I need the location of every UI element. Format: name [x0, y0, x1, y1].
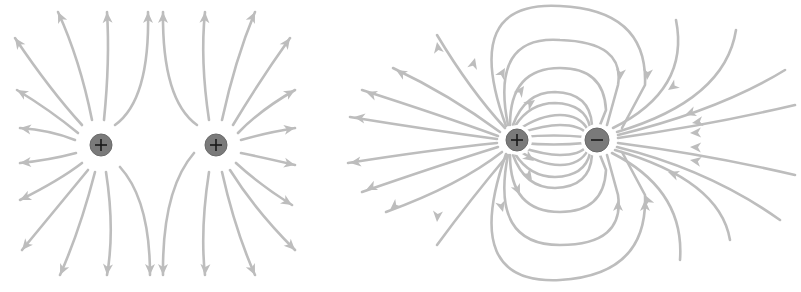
arrowhead-icon: [280, 195, 295, 209]
arrowhead-icon: [690, 128, 701, 138]
field-line: [393, 68, 500, 132]
field-line: [163, 12, 197, 125]
positive-charge: [502, 125, 532, 155]
panel-dipole: [348, 6, 795, 280]
field-line: [236, 163, 292, 205]
field-line: [163, 153, 194, 275]
arrowhead-icon: [246, 10, 260, 24]
negative-charge: [581, 124, 613, 156]
field-line: [241, 128, 295, 140]
arrowhead-icon: [432, 211, 443, 223]
field-line: [106, 172, 111, 275]
field-line: [492, 152, 646, 280]
arrowhead-icon: [690, 142, 701, 152]
charges: [86, 130, 231, 160]
field-line: [203, 12, 209, 120]
field-line: [60, 172, 95, 275]
charges: [502, 124, 613, 156]
field-lines: [348, 6, 795, 280]
arrowhead-icon: [15, 86, 30, 100]
positive-charge: [201, 130, 231, 160]
field-line: [222, 172, 255, 275]
arrowhead-icon: [511, 183, 525, 197]
field-line: [437, 156, 507, 245]
field-arrows: [11, 10, 299, 277]
arrowhead-icon: [689, 155, 702, 167]
field-line: [20, 163, 82, 200]
panel-two-positive-charges: [11, 10, 299, 277]
arrowhead-icon: [467, 57, 480, 70]
arrowhead-icon: [640, 193, 654, 207]
arrowhead-icon: [55, 263, 69, 277]
field-line: [241, 153, 295, 165]
field-line: [504, 155, 618, 245]
arrowhead-icon: [18, 191, 32, 205]
electric-field-diagram: [0, 0, 801, 292]
arrowhead-icon: [53, 10, 67, 24]
field-line: [20, 128, 75, 140]
field-lines: [15, 12, 295, 275]
field-line: [20, 153, 76, 163]
field-line: [115, 12, 148, 125]
arrowhead-icon: [283, 86, 298, 100]
arrowhead-icon: [246, 263, 260, 277]
arrowhead-icon: [11, 35, 26, 50]
arrowhead-icon: [394, 66, 409, 80]
positive-charge: [86, 130, 116, 160]
field-line: [222, 12, 255, 120]
field-line: [120, 167, 150, 275]
arrowhead-icon: [615, 69, 626, 81]
field-line: [492, 6, 646, 128]
field-line: [203, 172, 209, 275]
field-line: [104, 12, 108, 120]
